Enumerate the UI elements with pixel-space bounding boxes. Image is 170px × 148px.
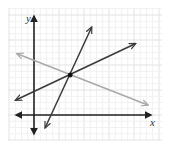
- coordinate-plane: x y: [0, 0, 170, 148]
- x-axis-label: x: [149, 116, 155, 128]
- y-axis-label: y: [25, 12, 31, 24]
- grid: [8, 8, 162, 140]
- intersection-point: [68, 73, 73, 78]
